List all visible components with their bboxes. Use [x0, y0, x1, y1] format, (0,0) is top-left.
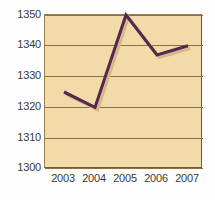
x-axis-tick-label: 2007	[169, 172, 205, 184]
y-axis-tick-label: 1320	[1, 101, 41, 112]
data-series-layer	[45, 15, 203, 169]
y-axis-tick-label: 1330	[1, 70, 41, 81]
line-chart: 1350 1340 1330 1320 1310 1300 2003 2004 …	[0, 0, 215, 200]
y-axis-tick-label: 1340	[1, 39, 41, 50]
y-axis-tick-label: 1310	[1, 132, 41, 143]
y-axis-tick-label: 1350	[1, 9, 41, 20]
x-axis: 2003 2004 2005 2006 2007	[44, 172, 202, 188]
series-shadow-line	[67, 18, 191, 110]
y-axis-tick-label: 1300	[1, 162, 41, 173]
y-axis: 1350 1340 1330 1320 1310 1300	[0, 0, 41, 200]
plot-area	[44, 14, 202, 168]
